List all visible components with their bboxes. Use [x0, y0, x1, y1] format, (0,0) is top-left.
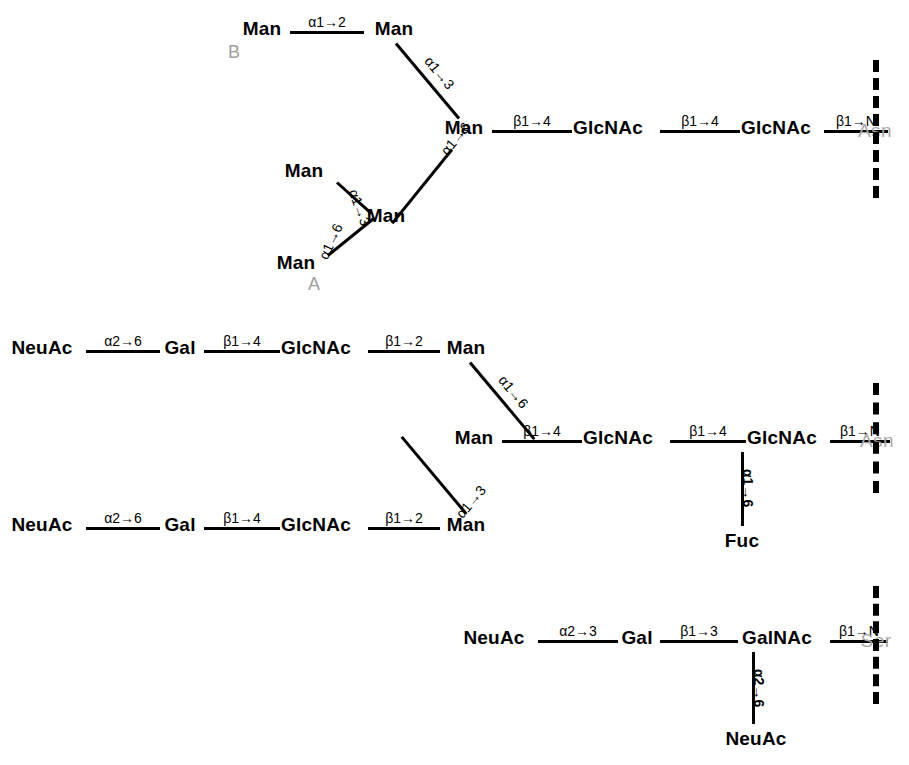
residue-glcnac-mid-2: GlcNAc	[747, 428, 817, 447]
residue-man-upper-branch: Man	[375, 19, 414, 38]
residue-glcnac-lower: GlcNAc	[281, 515, 351, 534]
residue-glcnac-1: GlcNAc	[573, 118, 643, 137]
glycan-diagram-canvas: Man α1→2 Man B α1→3 Man β1→4 GlcNAc β1→4…	[0, 0, 909, 765]
linkage-a2-6-upper: α2→6	[104, 334, 142, 348]
bond-gal-glcnac-upper	[204, 350, 280, 353]
bond-glcnac-glcnac-mid	[670, 440, 746, 443]
linkage-a1-6-fuc: α1→6	[741, 469, 755, 507]
bond-gal-galnac-o	[660, 640, 738, 643]
attachment-dashed-line-3	[873, 586, 879, 704]
residue-neuac-o-branch: NeuAc	[725, 729, 786, 748]
linkage-a2-6-o: α2→6	[752, 669, 766, 707]
residue-neuac-upper: NeuAc	[11, 338, 72, 357]
residue-galnac-o: GalNAc	[742, 628, 812, 647]
bond-glcnac-glcnac-b14	[660, 130, 740, 133]
residue-gal-lower: Gal	[164, 515, 195, 534]
attachment-dashed-line-2	[873, 383, 879, 493]
attachment-dashed-line-1	[873, 60, 879, 198]
residue-gal-o: Gal	[621, 628, 652, 647]
annotation-b: B	[228, 43, 240, 61]
bond-man-glcnac-mid-1	[502, 440, 582, 443]
linkage-a2-6-lower: α2→6	[104, 511, 142, 525]
linkage-b1-3-o: β1→3	[680, 624, 718, 638]
bond-glcnac-man-lower	[368, 527, 440, 530]
residue-man-core-mid: Man	[455, 428, 494, 447]
residue-man-b-terminal: Man	[243, 19, 282, 38]
residue-fuc: Fuc	[725, 531, 759, 550]
linkage-a1-3-upper: α1→3	[422, 54, 457, 92]
linkage-b1-4-mid-1: β1→4	[523, 424, 561, 438]
bond-neuac-gal-lower	[86, 527, 160, 530]
residue-man-a13-branch: Man	[285, 161, 324, 180]
linkage-a2-3-o: α2→3	[559, 624, 597, 638]
bond-neuac-gal-upper	[86, 350, 160, 353]
linkage-a1-6-mid: α1→6	[496, 373, 531, 411]
residue-glcnac-mid-1: GlcNAc	[583, 428, 653, 447]
bond-neuac-gal-o	[538, 640, 618, 643]
residue-gal-upper: Gal	[164, 338, 195, 357]
residue-glcnac-upper: GlcNAc	[281, 338, 351, 357]
linkage-b1-4-lower: β1→4	[223, 511, 261, 525]
residue-neuac-lower: NeuAc	[11, 515, 72, 534]
linkage-b1-4-mid-2: β1→4	[689, 424, 727, 438]
linkage-a1-2: α1→2	[308, 15, 346, 29]
residue-neuac-o-terminal: NeuAc	[463, 628, 524, 647]
bond-man-core-a13-mid	[401, 436, 468, 515]
bond-glcnac-man-upper	[368, 350, 440, 353]
bond-man-glcnac-b14	[492, 130, 572, 133]
linkage-b1-2-upper: β1→2	[385, 334, 423, 348]
linkage-a1-6-core: α1→6	[438, 120, 473, 158]
linkage-b1-4-upper: β1→4	[223, 334, 261, 348]
residue-man-a16-branch: Man	[277, 253, 316, 272]
linkage-b1-2-lower: β1→2	[385, 511, 423, 525]
residue-man-upper-antenna: Man	[447, 338, 486, 357]
linkage-b1-4-1: β1→4	[513, 114, 551, 128]
linkage-a1-6-inner: α1→6	[316, 221, 345, 261]
bond-gal-glcnac-lower	[204, 527, 280, 530]
annotation-a: A	[308, 275, 320, 293]
bond-man-man-a12	[290, 31, 364, 34]
residue-glcnac-2: GlcNAc	[741, 118, 811, 137]
linkage-b1-4-2: β1→4	[681, 114, 719, 128]
